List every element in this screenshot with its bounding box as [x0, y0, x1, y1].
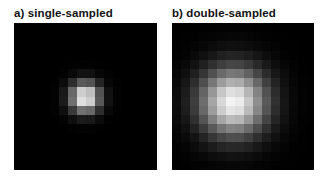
pixel-cell [113, 69, 122, 78]
pixel-cell [149, 115, 157, 124]
pixel-cell [253, 69, 262, 78]
pixel-cell [23, 23, 32, 32]
pixel-cell [172, 60, 181, 69]
pixel-cell [59, 60, 68, 69]
pixel-cell [235, 69, 244, 78]
pixel-cell [280, 41, 289, 50]
pixel-cell [289, 152, 298, 161]
pixel-cell [149, 23, 157, 32]
pixel-cell [122, 97, 131, 106]
label-single-sampled: a) single-sampled [14, 7, 113, 19]
pixel-cell [190, 32, 199, 41]
pixel-cell [271, 152, 280, 161]
pixel-grid-single [14, 23, 157, 170]
pixel-cell [244, 60, 253, 69]
pixel-cell [289, 115, 298, 124]
pixel-cell [41, 78, 50, 87]
pixel-cell [113, 23, 122, 32]
pixel-cell [271, 97, 280, 106]
pixel-cell [280, 133, 289, 142]
pixel-cell [298, 78, 307, 87]
pixel-cell [280, 115, 289, 124]
pixel-cell [235, 97, 244, 106]
pixel-cell [41, 69, 50, 78]
pixel-cell [226, 41, 235, 50]
pixel-cell [253, 41, 262, 50]
pixel-cell [172, 69, 181, 78]
pixel-cell [217, 60, 226, 69]
pixel-cell [289, 41, 298, 50]
pixel-cell [172, 23, 181, 32]
pixel-cell [190, 78, 199, 87]
pixel-cell [104, 133, 113, 142]
pixel-cell [244, 87, 253, 96]
pixel-cell [298, 115, 307, 124]
pixel-cell [149, 106, 157, 115]
pixel-cell [199, 161, 208, 170]
pixel-cell [95, 152, 104, 161]
pixel-cell [253, 97, 262, 106]
pixel-cell [23, 152, 32, 161]
pixel-cell [172, 115, 181, 124]
pixel-cell [280, 161, 289, 170]
pixel-cell [235, 115, 244, 124]
pixel-cell [235, 32, 244, 41]
pixel-cell [32, 69, 41, 78]
pixel-cell [235, 106, 244, 115]
pixel-cell [131, 133, 140, 142]
pixel-cell [68, 41, 77, 50]
pixel-cell [113, 152, 122, 161]
pixel-cell [235, 87, 244, 96]
pixel-cell [190, 60, 199, 69]
pixel-cell [140, 78, 149, 87]
pixel-cell [149, 142, 157, 151]
pixel-cell [77, 51, 86, 60]
pixel-cell [208, 41, 217, 50]
pixel-cell [149, 60, 157, 69]
pixel-cell [68, 51, 77, 60]
pixel-cell [50, 60, 59, 69]
pixel-cell [226, 78, 235, 87]
pixel-cell [208, 69, 217, 78]
pixel-cell [95, 124, 104, 133]
pixel-cell [59, 51, 68, 60]
pixel-cell [253, 78, 262, 87]
pixel-cell [95, 97, 104, 106]
pixel-cell [104, 41, 113, 50]
pixel-cell [86, 133, 95, 142]
pixel-cell [172, 78, 181, 87]
pixel-cell [140, 60, 149, 69]
pixel-cell [208, 32, 217, 41]
pixel-cell [41, 51, 50, 60]
pixel-cell [226, 115, 235, 124]
pixel-cell [140, 23, 149, 32]
pixel-cell [190, 142, 199, 151]
pixel-cell [68, 133, 77, 142]
pixel-cell [307, 97, 314, 106]
pixel-cell [181, 23, 190, 32]
pixel-cell [149, 133, 157, 142]
pixel-cell [199, 133, 208, 142]
pixel-cell [307, 51, 314, 60]
pixel-cell [244, 97, 253, 106]
pixel-cell [50, 115, 59, 124]
pixel-cell [307, 87, 314, 96]
pixel-cell [41, 60, 50, 69]
pixel-cell [181, 69, 190, 78]
pixel-cell [140, 161, 149, 170]
pixel-cell [253, 32, 262, 41]
pixel-cell [244, 152, 253, 161]
pixel-cell [181, 87, 190, 96]
pixel-cell [23, 87, 32, 96]
pixel-cell [50, 69, 59, 78]
pixel-cell [68, 124, 77, 133]
pixel-cell [95, 133, 104, 142]
pixel-cell [113, 78, 122, 87]
pixel-cell [59, 124, 68, 133]
pixel-cell [280, 152, 289, 161]
pixel-cell [307, 60, 314, 69]
pixel-cell [271, 87, 280, 96]
pixel-cell [140, 51, 149, 60]
pixel-cell [289, 51, 298, 60]
panel-single-sampled [14, 23, 157, 170]
